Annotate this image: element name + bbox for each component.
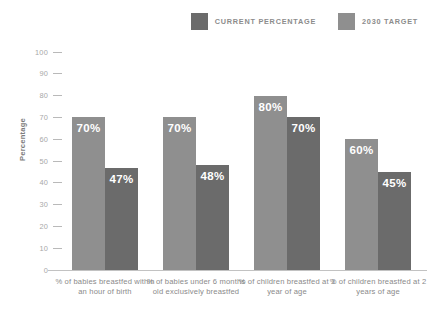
bar-current-percentage-4[interactable]: 45% (378, 172, 411, 270)
y-axis-tick-10: 10 (26, 243, 62, 253)
bar-2030-target-3[interactable]: 80% (254, 96, 287, 270)
y-axis-tick-40: 40 (26, 178, 62, 188)
category-label-1: % of babies breastfed within an hour of … (53, 277, 157, 298)
bar-value-label: 80% (254, 101, 287, 113)
category-label-3: % of children breastfed at 1 year of age (235, 277, 339, 298)
y-tick-label: 60 (39, 135, 48, 144)
y-axis-tick-50: 50 (26, 156, 62, 166)
y-axis-tick-60: 60 (26, 134, 62, 144)
y-axis-tick-30: 30 (26, 200, 62, 210)
bar-value-label: 70% (72, 122, 105, 134)
y-tick-dash-icon (53, 161, 62, 162)
y-axis-tick-100: 100 (26, 47, 62, 57)
bar-chart-plot-area: Percentage 100 90 80 70 60 50 40 30 20 1… (0, 0, 432, 323)
y-tick-label: 40 (39, 178, 48, 187)
bar-2030-target-4[interactable]: 60% (345, 139, 378, 270)
bar-2030-target-1[interactable]: 70% (72, 117, 105, 270)
bar-value-label: 70% (163, 122, 196, 134)
bar-value-label: 45% (378, 177, 411, 189)
bar-current-percentage-3[interactable]: 70% (287, 117, 320, 270)
bar-current-percentage-2[interactable]: 48% (196, 165, 229, 270)
y-axis-tick-20: 20 (26, 221, 62, 231)
x-axis-baseline (48, 270, 427, 271)
y-tick-dash-icon (53, 73, 62, 74)
bar-value-label: 48% (196, 170, 229, 182)
y-tick-dash-icon (53, 204, 62, 205)
y-tick-label: 70 (39, 113, 48, 122)
y-axis-tick-70: 70 (26, 112, 62, 122)
y-tick-dash-icon (53, 95, 62, 96)
y-tick-label: 50 (39, 157, 48, 166)
y-tick-label: 80 (39, 91, 48, 100)
y-tick-label: 90 (39, 69, 48, 78)
bar-value-label: 47% (105, 173, 138, 185)
y-tick-dash-icon (53, 248, 62, 249)
category-label-2: % of babies under 6 months old exclusive… (144, 277, 248, 298)
y-tick-dash-icon (53, 117, 62, 118)
y-tick-label: 30 (39, 200, 48, 209)
y-tick-dash-icon (53, 52, 62, 53)
bar-value-label: 60% (345, 144, 378, 156)
bar-value-label: 70% (287, 122, 320, 134)
bar-current-percentage-1[interactable]: 47% (105, 168, 138, 271)
y-tick-label: 20 (39, 222, 48, 231)
y-tick-dash-icon (53, 182, 62, 183)
y-axis-tick-80: 80 (26, 91, 62, 101)
y-tick-dash-icon (53, 226, 62, 227)
y-tick-label: 100 (35, 48, 48, 57)
category-label-4: % of children breastfed at 2 years of ag… (326, 277, 430, 298)
y-tick-dash-icon (53, 139, 62, 140)
y-axis-tick-90: 90 (26, 69, 62, 79)
bar-2030-target-2[interactable]: 70% (163, 117, 196, 270)
y-tick-label: 10 (39, 244, 48, 253)
